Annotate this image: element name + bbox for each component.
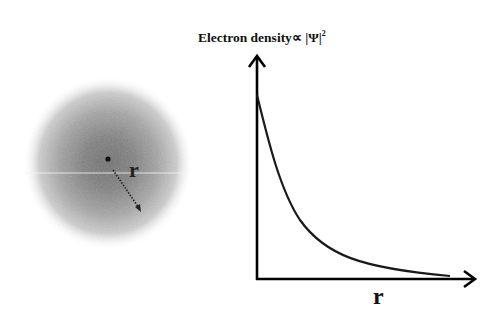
density-curve [257, 95, 450, 276]
electron-cloud [24, 77, 192, 249]
x-axis-label: r [373, 284, 384, 308]
nucleus-dot [105, 156, 110, 161]
chart-title: Electron density∝ |Ψ|2 [198, 29, 326, 46]
electron-density-diagram: Electron density∝ |Ψ|2 r r [0, 0, 499, 328]
diagram-canvas [0, 0, 499, 328]
cloud-radius-label: r [129, 159, 139, 181]
x-axis [256, 271, 475, 287]
y-axis [249, 56, 265, 280]
